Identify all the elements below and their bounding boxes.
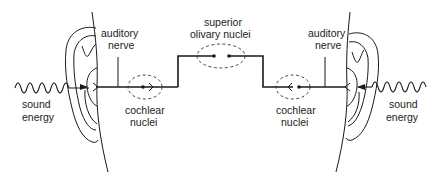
left-sound-label-2: energy	[22, 111, 55, 123]
left-sound-label-1: sound	[22, 98, 51, 110]
right-ascending-path	[229, 56, 293, 87]
right-nerve-label-2: nerve	[315, 39, 341, 51]
auditory-pathway-diagram: sound energy auditory nerve cochlear nuc…	[0, 0, 442, 183]
right-sound-label-1: sound	[389, 98, 418, 110]
olivary-label-2: olivary nuclei	[190, 28, 251, 40]
left-sound-wave-icon	[15, 83, 89, 93]
left-nerve-label-2: nerve	[108, 39, 134, 51]
right-arrowhead-icon	[357, 84, 365, 90]
right-cochlear-label-1: cochlear	[276, 104, 316, 116]
left-cochlear-label-2: nuclei	[130, 116, 157, 128]
right-cochlear-label-2: nuclei	[281, 116, 308, 128]
olivary-label-1: superior	[204, 16, 242, 28]
left-ascending-path	[178, 56, 214, 87]
left-nerve-label-1: auditory	[101, 27, 139, 39]
right-nerve-label-1: auditory	[308, 27, 346, 39]
right-sound-label-2: energy	[386, 111, 419, 123]
left-cochlear-label-1: cochlear	[125, 104, 165, 116]
